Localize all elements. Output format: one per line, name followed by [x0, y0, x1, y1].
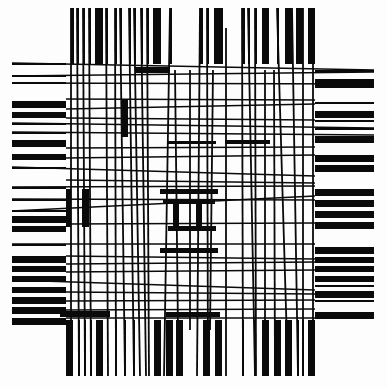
left-bar: [12, 140, 66, 147]
right-bar: [315, 300, 374, 302]
solid-block: [135, 67, 170, 73]
top-bar: [95, 8, 103, 64]
bottom-bar: [176, 320, 183, 376]
right-bar: [315, 257, 374, 263]
solid-block: [82, 189, 89, 227]
solid-block: [166, 312, 220, 317]
horizontal-line: [12, 186, 315, 187]
right-bar: [315, 276, 374, 282]
right-bar: [315, 222, 374, 229]
left-bar: [12, 307, 66, 314]
left-bar: [12, 318, 66, 325]
left-bar: [12, 256, 66, 263]
solid-block: [163, 200, 215, 204]
vertical-line: [274, 70, 275, 376]
solid-block: [173, 204, 179, 226]
right-bar: [315, 102, 374, 104]
bottom-bar: [66, 320, 73, 376]
top-bar: [214, 8, 223, 64]
left-bar: [12, 287, 66, 293]
right-bar: [315, 120, 374, 122]
left-bar: [12, 101, 66, 108]
vertical-line: [115, 8, 116, 376]
bottom-bar: [96, 320, 103, 376]
left-bar: [12, 112, 66, 118]
left-bar: [12, 297, 66, 304]
horizontal-line: [12, 83, 374, 84]
right-bar: [315, 211, 374, 218]
bottom-bar: [154, 320, 161, 376]
left-bar: [12, 266, 66, 272]
top-bar: [262, 8, 269, 64]
left-bar: [12, 154, 66, 160]
right-bar: [315, 291, 374, 298]
right-bar: [315, 247, 374, 254]
solid-block: [160, 189, 218, 194]
solid-block: [160, 248, 218, 253]
bottom-bar: [308, 320, 315, 376]
solid-block: [196, 204, 202, 226]
solid-block: [225, 140, 270, 144]
solid-block: [168, 226, 216, 231]
top-bar: [153, 8, 161, 64]
left-bar: [12, 226, 66, 232]
top-bar: [308, 8, 315, 64]
solid-block: [60, 311, 110, 317]
solid-block: [66, 189, 71, 227]
right-bar: [315, 165, 374, 172]
artwork-canvas: [0, 0, 387, 389]
horizontal-line: [12, 199, 315, 200]
right-bar: [315, 200, 374, 207]
right-bar: [315, 111, 374, 118]
right-bar: [315, 189, 374, 196]
vertical-line: [242, 8, 243, 376]
left-bar: [12, 216, 66, 223]
abstract-line-artwork: [0, 0, 387, 389]
right-bar: [315, 266, 374, 272]
right-bar: [315, 136, 374, 143]
solid-block: [168, 141, 216, 144]
bottom-bar: [203, 320, 210, 376]
bottom-bar: [215, 320, 222, 376]
top-bar: [285, 8, 292, 64]
bottom-bar: [166, 320, 173, 376]
right-bar: [315, 155, 374, 162]
right-bar: [315, 285, 374, 287]
right-bar: [315, 312, 374, 319]
solid-block: [122, 100, 128, 137]
top-bar: [296, 8, 303, 64]
vertical-line: [255, 8, 256, 376]
